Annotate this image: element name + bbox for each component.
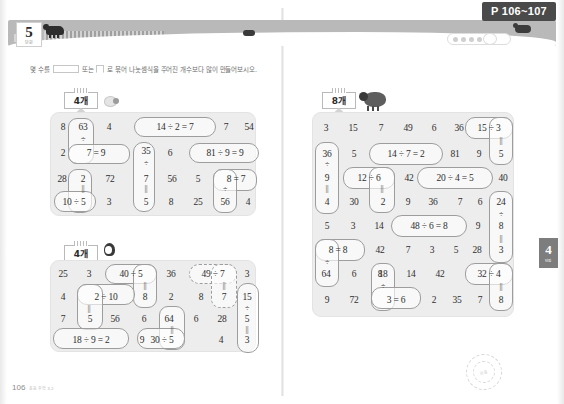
cell-9: 9 [469, 143, 489, 165]
cell-42b: 42 [367, 239, 393, 261]
workbook-spread: 5 단원 P 106~107 몇 수를 또는 로 묶어 나눗셈식을 주어진 개수… [0, 0, 564, 404]
eq-7-9: 7 = 9 [73, 143, 119, 163]
cell-72: 72 [341, 289, 367, 311]
cell-6b: 6 [469, 191, 491, 213]
instruction-text-1: 몇 수를 [30, 64, 50, 74]
cell-6: 6 [133, 309, 155, 329]
left-page-edge [0, 0, 7, 404]
unit-side-tab[interactable]: 4 단원 [539, 238, 558, 268]
cell-7b: 7 [52, 309, 74, 329]
op-divide-35: ÷ [137, 158, 155, 169]
cell-6c: 6 [343, 263, 365, 285]
cell-2: 2 [371, 191, 395, 213]
cell-28: 28 [209, 309, 235, 329]
cell-3b: 3 [341, 215, 365, 237]
side-tab-number: 4 [545, 243, 552, 256]
cell-9e: 9 [315, 289, 339, 311]
cell-14: 14 [367, 215, 391, 237]
eq-14-2-7: 14 ÷ 2 = 7 [137, 117, 213, 137]
sheep-icon [364, 92, 386, 107]
page-folio-left: 106 초등 수학 3-2 [12, 383, 53, 392]
count-label-card-1: 4개 [64, 92, 98, 109]
cell-56: 56 [103, 309, 127, 329]
instruction-text-2: 또는 [82, 64, 94, 74]
cell-7: 7 [369, 117, 393, 139]
puzzle-board-2[interactable]: 25 3 40 ÷ 5 36 49 ÷ 7 3 || || 4 2 ÷ 10 8… [50, 260, 256, 352]
instruction-text-3: 로 묶어 나눗셈식을 주어진 개수보다 많이 만들어보시오. [107, 64, 256, 74]
cell-64: 64 [313, 263, 339, 285]
page-range-tag: P 106~107 [482, 2, 556, 21]
eq-10-5: 10 ÷ 5 [54, 192, 94, 212]
eq-3-6: 3 = 6 [373, 289, 419, 311]
cell-4: 4 [52, 287, 74, 307]
pill-dot-icon [477, 37, 482, 42]
cell-3: 3 [79, 264, 99, 284]
cell-3c: 3 [237, 330, 257, 350]
pill-dot-icon [469, 37, 474, 42]
cell-7: 7 [217, 117, 235, 137]
bird-icon [104, 243, 115, 256]
cell-3c: 3 [421, 239, 443, 261]
cell-72: 72 [99, 169, 121, 189]
cell-36c: 36 [421, 191, 445, 213]
count-label-card-3: 8개 [322, 92, 356, 109]
eq-14-7-2: 14 ÷ 7 = 2 [371, 143, 441, 165]
instruction-line: 몇 수를 또는 로 묶어 나눗셈식을 주어진 개수보다 많이 만들어보시오. [30, 64, 257, 74]
eq-20-4-5: 20 ÷ 4 = 5 [419, 167, 491, 189]
cell-42: 42 [397, 167, 421, 189]
cell-8: 8 [133, 287, 157, 307]
cell-5b: 5 [137, 192, 155, 212]
cell-25: 25 [187, 192, 209, 212]
cell-7b: 7 [137, 169, 155, 189]
count-label-3: 8개 [332, 94, 346, 107]
count-label-2: 4개 [74, 247, 88, 260]
cell-8: 8 [53, 117, 73, 137]
folio-number: 106 [12, 383, 25, 392]
cell-5: 5 [189, 169, 207, 189]
cell-25: 25 [52, 264, 74, 284]
cell-14b: 14 [399, 263, 423, 285]
cell-15: 15 [341, 117, 365, 139]
cell-36: 36 [159, 264, 183, 284]
cell-6: 6 [423, 117, 445, 139]
eq-30-5: 30 ÷ 5 [139, 330, 185, 350]
cell-40: 40 [491, 167, 515, 189]
cell-5b: 5 [489, 143, 513, 165]
eq-48-6-8: 48 ÷ 6 = 8 [393, 215, 465, 237]
right-page-edge [557, 0, 564, 404]
cell-8b: 8 [191, 287, 211, 307]
cell-8b: 8 [161, 192, 181, 212]
long-box-icon [53, 65, 79, 73]
count-label-1: 4개 [74, 94, 88, 107]
cell-4b: 4 [239, 192, 257, 212]
chapter-unit-label: 단원 [25, 41, 33, 45]
cell-3b: 3 [237, 264, 257, 284]
cell-49: 49 [395, 117, 421, 139]
certification-stamp-inner: 인증 [472, 360, 497, 385]
cell-2b: 2 [423, 289, 445, 311]
cow-icon-2 [243, 30, 255, 36]
cell-7b: 7 [449, 191, 471, 213]
cell-4b: 4 [209, 330, 233, 350]
cell-7d: 7 [469, 289, 491, 311]
lamb-icon-1 [104, 96, 117, 107]
cell-5d: 5 [445, 239, 467, 261]
pill-dot-icon [461, 37, 466, 42]
cell-56b: 56 [214, 192, 236, 212]
cell-5c: 5 [315, 215, 339, 237]
cell-81: 81 [443, 143, 467, 165]
cell-7: 7 [213, 287, 235, 307]
cow-icon [46, 26, 64, 35]
cell-56: 56 [161, 169, 183, 189]
cell-54: 54 [239, 117, 259, 137]
cell-9c: 9 [397, 191, 419, 213]
book-gutter [281, 8, 284, 396]
cell-28: 28 [465, 239, 489, 261]
puzzle-board-1[interactable]: 8 63 4 14 ÷ 2 = 7 7 54 ÷ 2 7 = 9 35 6 81… [50, 112, 256, 216]
cell-6: 6 [161, 143, 179, 163]
puzzle-board-3[interactable]: 3 15 7 49 6 36 15 ÷ 3 || 36 5 14 ÷ 7 = 2… [312, 112, 514, 317]
cell-3: 3 [315, 117, 337, 139]
cow-icon-3 [515, 25, 531, 33]
cell-3: 3 [99, 192, 119, 212]
side-tab-label: 단원 [545, 258, 551, 263]
